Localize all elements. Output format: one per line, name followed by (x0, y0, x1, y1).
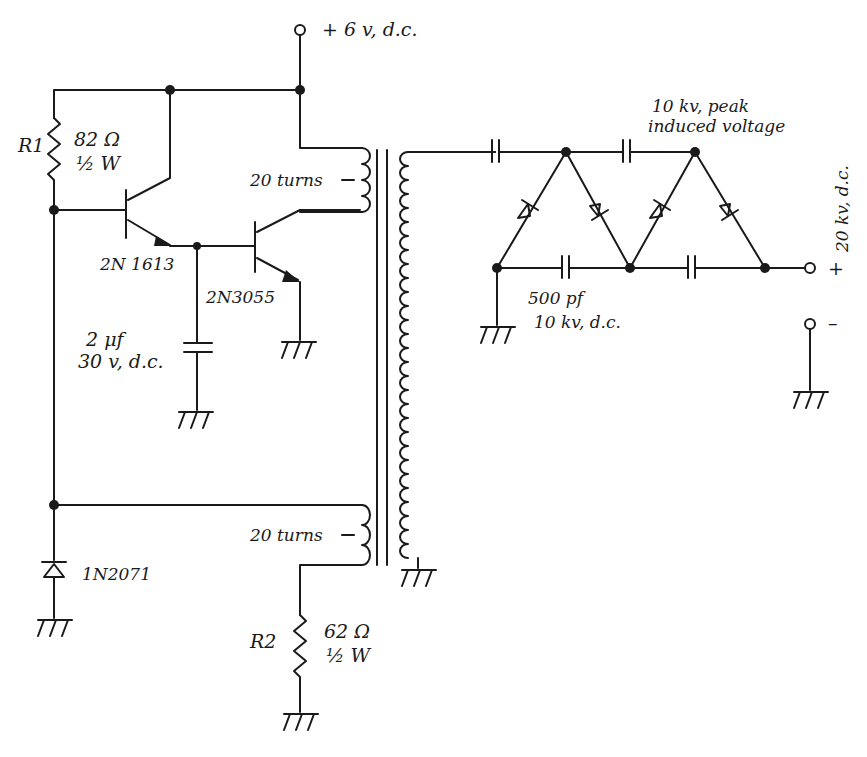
winding-secondary (400, 152, 495, 586)
winding-top (300, 90, 370, 212)
capacitor-c1 (179, 246, 213, 428)
output-label: 20 kv, d.c. (832, 165, 852, 253)
top-rail (54, 90, 300, 118)
r2-value: 62 Ω (324, 620, 370, 642)
junction-dot (561, 147, 571, 157)
supply-label: + 6 v, d.c. (322, 18, 418, 40)
winding-bottom (54, 505, 370, 615)
junction-dot (760, 263, 770, 273)
cap-value: 500 pf (528, 288, 586, 308)
r1-power: ½ W (76, 152, 121, 174)
c1-value: 2 μf (85, 328, 126, 350)
diode-label: 1N2071 (82, 564, 151, 584)
output-positive-terminal (805, 263, 815, 273)
r1-name: R1 (17, 134, 44, 156)
resistor-r2 (294, 615, 306, 712)
resistor-r1 (48, 118, 60, 210)
r1-value: 82 Ω (74, 128, 120, 150)
supply-terminal (295, 25, 305, 90)
output-plus-sign: + (828, 257, 844, 279)
winding-bottom-label: 20 turns (249, 525, 323, 545)
r2-name: R2 (249, 630, 276, 652)
cap-rating: 10 kv, d.c. (534, 312, 621, 332)
peak-label-1: 10 kv, peak (652, 96, 749, 116)
junction-dot (690, 147, 700, 157)
output-negative-terminal (794, 319, 828, 408)
output-minus-sign: – (828, 312, 838, 334)
winding-top-label: 20 turns (249, 170, 323, 190)
peak-label-2: induced voltage (648, 116, 785, 136)
r2-power: ½ W (326, 644, 371, 666)
c1-rating: 30 v, d.c. (78, 350, 164, 372)
voltage-multiplier (481, 140, 805, 343)
q1-label: 2N 1613 (99, 254, 174, 274)
diode-1n2071 (38, 530, 72, 636)
transistor-q2 (255, 210, 360, 358)
junction-dot (492, 263, 502, 273)
q2-label: 2N3055 (205, 287, 275, 307)
circuit-schematic: + 6 v, d.c. R1 82 Ω ½ W 2N 1613 2N3055 (0, 0, 867, 757)
junction-dot (625, 263, 635, 273)
